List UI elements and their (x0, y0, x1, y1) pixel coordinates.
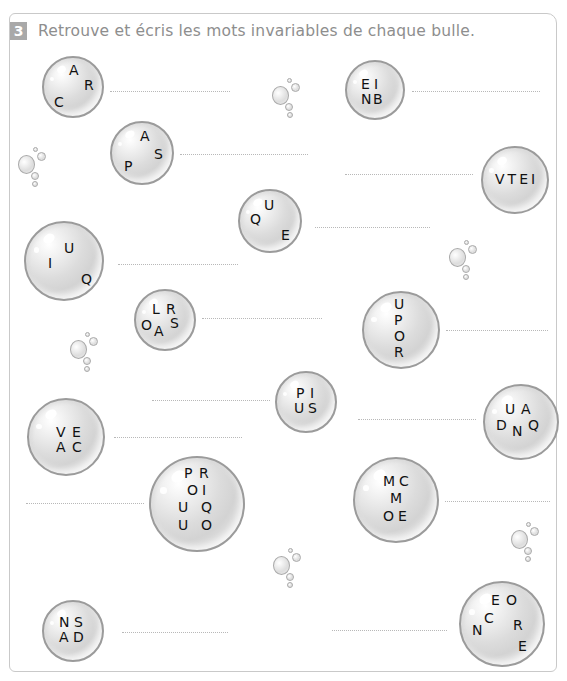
bubble-letter: I (531, 171, 538, 187)
letter-bubble: L R O A S (134, 289, 196, 351)
bubble-letter: A (56, 440, 66, 454)
answer-line[interactable] (122, 632, 228, 633)
bubble-letter: A (154, 324, 164, 338)
bubble-letter: E (281, 228, 290, 242)
bubble-letter: U (294, 401, 304, 415)
bubble-letter: Q (201, 500, 212, 514)
bubble-letter: L (152, 302, 160, 316)
bubble-letter: Q (250, 212, 261, 226)
bubble-letter: V (495, 171, 508, 187)
letter-bubble: A S P (110, 121, 174, 185)
answer-line[interactable] (110, 91, 230, 92)
small-bubbles-decoration (449, 240, 489, 290)
small-bubbles-decoration (70, 332, 110, 382)
bubble-letter: P (394, 313, 402, 327)
letter-bubble: P I U S (275, 371, 337, 433)
bubble-letter: Q (81, 272, 92, 286)
bubble-letter: P (296, 386, 304, 400)
bubble-letter: N (361, 92, 371, 106)
small-bubbles-decoration (511, 522, 551, 572)
letter-bubble: U P O R (362, 291, 440, 369)
answer-line[interactable] (332, 630, 447, 631)
bubble-letter: V (56, 425, 66, 439)
bubble-letter: N (512, 424, 522, 438)
bubble-letter: S (154, 147, 163, 161)
bubble-letter: I (48, 256, 52, 270)
exercise-number-badge: 3 (10, 22, 27, 40)
bubble-letter: O (394, 329, 405, 343)
bubble-letter: A (140, 129, 150, 143)
bubble-letter: E (518, 639, 527, 653)
bubble-letter: VTEI (495, 172, 538, 186)
bubble-letter: C (54, 95, 64, 109)
bubble-letter: R (513, 618, 523, 632)
answer-line[interactable] (412, 91, 540, 92)
letter-bubble: A R C (42, 56, 104, 118)
bubble-letter: M (383, 474, 395, 488)
bubble-letter: O (201, 518, 212, 532)
letter-bubble: U I Q (24, 221, 104, 301)
bubble-letter: I (202, 483, 206, 497)
answer-line[interactable] (202, 318, 322, 319)
bubble-letter: Q (528, 418, 539, 432)
answer-line[interactable] (118, 264, 238, 265)
bubble-letter: U (178, 518, 188, 532)
bubble-letter: D (73, 630, 84, 644)
bubble-letter: E (491, 593, 500, 607)
bubble-letter: C (72, 440, 82, 454)
answer-line[interactable] (180, 154, 308, 155)
letter-bubble: N S A D (42, 600, 104, 662)
bubble-letter: M (390, 491, 402, 505)
bubble-letter: C (399, 474, 409, 488)
exercise-instruction: Retrouve et écris les mots invariables d… (38, 22, 475, 40)
bubble-letter: U (394, 297, 404, 311)
bubble-letter: P (124, 159, 132, 173)
bubble-letter: N (472, 623, 482, 637)
small-bubbles-decoration (272, 78, 312, 128)
letter-bubble: M C M O E (353, 457, 439, 543)
answer-line[interactable] (152, 400, 270, 401)
bubble-letter: E (72, 425, 81, 439)
answer-line[interactable] (345, 174, 473, 175)
bubble-letter: R (166, 302, 176, 316)
bubble-letter: O (506, 593, 517, 607)
bubble-letter: S (308, 401, 317, 415)
bubble-letter: O (141, 318, 152, 332)
letter-bubble: VTEI (481, 146, 549, 214)
bubble-letter: E (398, 509, 407, 523)
bubble-letter: A (59, 630, 69, 644)
letter-bubble: V E A C (27, 398, 105, 476)
answer-line[interactable] (315, 227, 430, 228)
answer-line[interactable] (26, 503, 144, 504)
bubble-letter: B (373, 92, 383, 106)
bubble-letter: E (361, 77, 370, 91)
small-bubbles-decoration (273, 548, 313, 598)
answer-line[interactable] (445, 501, 550, 502)
answer-line[interactable] (114, 437, 242, 438)
bubble-letter: U (64, 241, 74, 255)
letter-bubble: E O C R N E (459, 581, 545, 667)
bubble-letter: S (74, 615, 83, 629)
bubble-letter: A (521, 402, 531, 416)
bubble-letter: C (484, 611, 494, 625)
bubble-letter: U (178, 500, 188, 514)
bubble-letter: U (264, 198, 274, 212)
letter-bubble: P R O I U Q U O (149, 456, 245, 552)
bubble-letter: S (170, 316, 179, 330)
bubble-letter: P (184, 466, 192, 480)
bubble-letter: A (69, 63, 79, 77)
answer-line[interactable] (446, 330, 548, 331)
bubble-letter: T (508, 171, 520, 187)
bubble-letter: O (187, 483, 198, 497)
bubble-letter: D (496, 418, 507, 432)
letter-bubble: E I N B (345, 60, 405, 120)
answer-line[interactable] (358, 419, 476, 420)
bubble-letter: E (519, 171, 531, 187)
bubble-letter: R (394, 345, 404, 359)
small-bubbles-decoration (18, 147, 58, 197)
bubble-letter: U (505, 402, 515, 416)
letter-bubble: U A D N Q (483, 384, 559, 460)
letter-bubble: U Q E (238, 189, 302, 253)
bubble-letter: R (199, 466, 209, 480)
bubble-letter: R (84, 78, 94, 92)
